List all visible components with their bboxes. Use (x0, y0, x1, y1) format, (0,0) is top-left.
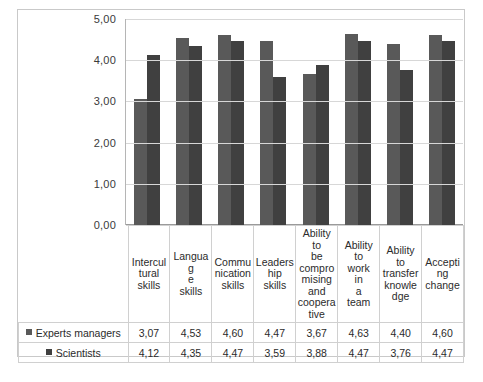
category-label-cell: Leadershipskills (254, 226, 296, 323)
plot-region: 5,004,003,002,001,000,00 (18, 10, 464, 225)
legend-series-name: Experts managers (36, 327, 121, 339)
y-axis: 5,004,003,002,001,000,00 (18, 10, 125, 225)
legend-series-name: Scientists (56, 347, 101, 359)
bar[interactable] (442, 41, 455, 225)
data-value-cell: 3,76 (380, 343, 422, 363)
bar[interactable] (400, 70, 413, 225)
category-label-cell: Abilitytotransferknowledge (380, 226, 422, 323)
plot-area (125, 19, 463, 225)
bar[interactable] (189, 46, 202, 225)
y-axis-tick-label: 4,00 (94, 54, 116, 66)
bar[interactable] (260, 41, 273, 225)
gridline (126, 184, 463, 185)
bar-series-container (126, 19, 463, 225)
gridline (126, 19, 463, 20)
bar[interactable] (218, 35, 231, 225)
chart-page: 5,004,003,002,001,000,00 Interculturalsk… (0, 0, 483, 382)
gridline (126, 143, 463, 144)
category-label-row: InterculturalskillsLanguageskillsCommuni… (19, 226, 464, 323)
data-value-cell: 4,53 (170, 323, 212, 343)
data-value-cell: 4,60 (422, 323, 464, 343)
bar[interactable] (176, 38, 189, 225)
data-value-cell: 4,47 (338, 343, 380, 363)
legend-swatch-icon (26, 329, 32, 335)
series-value-row-2: Scientists4,124,354,473,593,884,473,764,… (19, 343, 464, 363)
bar-group (295, 19, 337, 225)
data-value-cell: 3,67 (296, 323, 338, 343)
data-value-cell: 3,59 (254, 343, 296, 363)
category-label-cell: Acceptingchange (422, 226, 464, 323)
bar-group (337, 19, 379, 225)
bar-group (168, 19, 210, 225)
gridline (126, 60, 463, 61)
series-value-row-1: Experts managers3,074,534,604,473,674,63… (19, 323, 464, 343)
category-label-cell: Abilitytobecompromisingandcooperative (296, 226, 338, 323)
bar[interactable] (345, 34, 358, 225)
data-value-cell: 4,63 (338, 323, 380, 343)
bar[interactable] (273, 77, 286, 225)
category-label-cell: Communicationskills (212, 226, 254, 323)
chart-frame: 5,004,003,002,001,000,00 Interculturalsk… (17, 9, 465, 357)
bar-group (421, 19, 463, 225)
bar-group (126, 19, 168, 225)
bar[interactable] (303, 74, 316, 225)
bar[interactable] (134, 99, 147, 225)
category-label-cell: Abilitytoworkinateam (338, 226, 380, 323)
bar[interactable] (358, 41, 371, 225)
bar-group (379, 19, 421, 225)
bar[interactable] (231, 41, 244, 225)
y-axis-tick-label: 1,00 (94, 178, 116, 190)
data-value-cell: 4,47 (422, 343, 464, 363)
data-value-cell: 3,88 (296, 343, 338, 363)
legend-swatch-icon (46, 349, 52, 355)
data-value-cell: 4,47 (254, 323, 296, 343)
table-corner-cell (19, 226, 129, 323)
bar[interactable] (387, 44, 400, 225)
bar[interactable] (429, 35, 442, 225)
category-label-cell: Languageskills (170, 226, 212, 323)
bar-group (210, 19, 252, 225)
bar-group (252, 19, 294, 225)
bar[interactable] (147, 55, 160, 225)
bar[interactable] (316, 65, 329, 225)
gridline (126, 101, 463, 102)
data-table: InterculturalskillsLanguageskillsCommuni… (18, 225, 464, 363)
data-value-cell: 4,47 (212, 343, 254, 363)
legend-item-1[interactable]: Experts managers (19, 323, 129, 343)
y-axis-tick-label: 2,00 (94, 137, 116, 149)
legend-item-2[interactable]: Scientists (19, 343, 129, 363)
data-value-cell: 3,07 (128, 323, 170, 343)
data-value-cell: 4,60 (212, 323, 254, 343)
y-axis-tick-label: 3,00 (94, 95, 116, 107)
category-label-cell: Interculturalskills (128, 226, 170, 323)
data-value-cell: 4,12 (128, 343, 170, 363)
y-axis-tick-label: 5,00 (94, 13, 116, 25)
data-value-cell: 4,35 (170, 343, 212, 363)
data-value-cell: 4,40 (380, 323, 422, 343)
